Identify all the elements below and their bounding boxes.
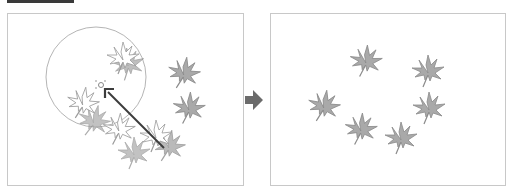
leaf-outline-icon (102, 112, 137, 147)
leaf-icon (172, 91, 207, 126)
leaf-icon (305, 87, 342, 124)
leaf-icon (413, 92, 445, 124)
panel-before (7, 13, 244, 186)
after-canvas (271, 14, 507, 187)
leaf-icon (412, 55, 444, 87)
leaf-icon (165, 54, 202, 91)
leaf-icon (385, 122, 417, 154)
leaf-icon (349, 44, 384, 79)
crosshair-icon (99, 83, 104, 88)
before-canvas (8, 14, 245, 187)
header-bar (7, 0, 74, 3)
right-arrow-icon (245, 90, 263, 110)
panel-after (270, 13, 506, 186)
leaf-icon (344, 112, 379, 147)
